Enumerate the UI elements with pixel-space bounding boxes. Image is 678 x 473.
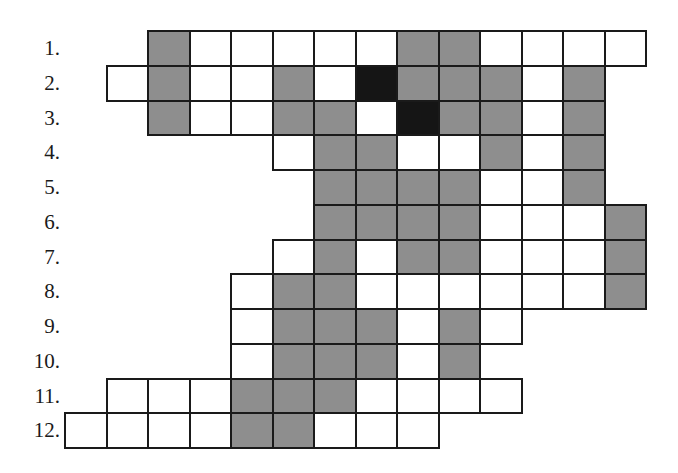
white-cell[interactable] bbox=[313, 65, 357, 102]
row-label: 8. bbox=[0, 274, 60, 309]
shaded-cell bbox=[313, 378, 357, 414]
white-cell[interactable] bbox=[147, 412, 191, 449]
white-cell[interactable] bbox=[230, 65, 274, 102]
white-cell[interactable] bbox=[272, 134, 315, 171]
shaded-cell bbox=[355, 169, 398, 206]
shaded-cell bbox=[147, 100, 191, 136]
white-cell[interactable] bbox=[230, 100, 274, 136]
shaded-cell bbox=[272, 378, 315, 414]
white-cell[interactable] bbox=[479, 378, 523, 414]
white-cell[interactable] bbox=[189, 378, 232, 414]
white-cell[interactable] bbox=[355, 378, 398, 414]
shaded-cell bbox=[604, 239, 647, 275]
white-cell[interactable] bbox=[313, 412, 357, 449]
shaded-cell bbox=[272, 100, 315, 136]
white-cell[interactable] bbox=[189, 30, 232, 67]
white-cell[interactable] bbox=[521, 204, 564, 241]
shaded-cell bbox=[438, 204, 481, 241]
shaded-cell bbox=[562, 100, 606, 136]
white-cell[interactable] bbox=[438, 134, 481, 171]
shaded-cell bbox=[272, 65, 315, 102]
white-cell[interactable] bbox=[355, 273, 398, 310]
shaded-cell bbox=[438, 65, 481, 102]
shaded-cell bbox=[272, 308, 315, 345]
shaded-cell bbox=[313, 273, 357, 310]
shaded-cell bbox=[396, 239, 440, 275]
white-cell[interactable] bbox=[106, 378, 149, 414]
shaded-cell bbox=[313, 169, 357, 206]
white-cell[interactable] bbox=[562, 273, 606, 310]
white-cell[interactable] bbox=[189, 65, 232, 102]
shaded-cell bbox=[272, 412, 315, 449]
shaded-cell bbox=[396, 204, 440, 241]
white-cell[interactable] bbox=[479, 30, 523, 67]
shaded-cell bbox=[313, 308, 357, 345]
white-cell[interactable] bbox=[230, 30, 274, 67]
white-cell[interactable] bbox=[147, 378, 191, 414]
shaded-cell bbox=[604, 273, 647, 310]
white-cell[interactable] bbox=[230, 343, 274, 380]
white-cell[interactable] bbox=[396, 134, 440, 171]
shaded-cell bbox=[355, 204, 398, 241]
white-cell[interactable] bbox=[438, 273, 481, 310]
shaded-cell bbox=[604, 204, 647, 241]
shaded-cell bbox=[230, 378, 274, 414]
shaded-cell bbox=[438, 169, 481, 206]
white-cell[interactable] bbox=[64, 412, 108, 449]
shaded-cell bbox=[355, 343, 398, 380]
white-cell[interactable] bbox=[230, 308, 274, 345]
row-label: 11. bbox=[0, 379, 60, 414]
shaded-cell bbox=[479, 65, 523, 102]
white-cell[interactable] bbox=[272, 239, 315, 275]
white-cell[interactable] bbox=[396, 308, 440, 345]
white-cell[interactable] bbox=[479, 239, 523, 275]
row-label: 3. bbox=[0, 101, 60, 136]
white-cell[interactable] bbox=[189, 100, 232, 136]
white-cell[interactable] bbox=[521, 273, 564, 310]
shaded-cell bbox=[479, 100, 523, 136]
white-cell[interactable] bbox=[521, 65, 564, 102]
shaded-cell bbox=[438, 308, 481, 345]
shaded-cell bbox=[313, 239, 357, 275]
white-cell[interactable] bbox=[396, 412, 440, 449]
white-cell[interactable] bbox=[562, 204, 606, 241]
white-cell[interactable] bbox=[438, 378, 481, 414]
white-cell[interactable] bbox=[355, 100, 398, 136]
shaded-cell bbox=[313, 100, 357, 136]
white-cell[interactable] bbox=[479, 204, 523, 241]
white-cell[interactable] bbox=[189, 412, 232, 449]
white-cell[interactable] bbox=[106, 65, 149, 102]
white-cell[interactable] bbox=[562, 239, 606, 275]
shaded-cell bbox=[438, 343, 481, 380]
white-cell[interactable] bbox=[313, 30, 357, 67]
white-cell[interactable] bbox=[396, 273, 440, 310]
white-cell[interactable] bbox=[521, 30, 564, 67]
shaded-cell bbox=[272, 273, 315, 310]
shaded-cell bbox=[562, 65, 606, 102]
white-cell[interactable] bbox=[479, 308, 523, 345]
row-label: 7. bbox=[0, 240, 60, 275]
white-cell[interactable] bbox=[521, 239, 564, 275]
white-cell[interactable] bbox=[604, 30, 647, 67]
white-cell[interactable] bbox=[396, 378, 440, 414]
shaded-cell bbox=[313, 204, 357, 241]
white-cell[interactable] bbox=[355, 30, 398, 67]
row-label: 5. bbox=[0, 170, 60, 205]
white-cell[interactable] bbox=[272, 30, 315, 67]
white-cell[interactable] bbox=[355, 412, 398, 449]
shaded-cell bbox=[147, 65, 191, 102]
white-cell[interactable] bbox=[396, 343, 440, 380]
white-cell[interactable] bbox=[479, 273, 523, 310]
white-cell[interactable] bbox=[106, 412, 149, 449]
white-cell[interactable] bbox=[230, 273, 274, 310]
crossword-grid: 1.2.3.4.5.6.7.8.9.10.11.12. bbox=[0, 0, 678, 473]
white-cell[interactable] bbox=[521, 100, 564, 136]
white-cell[interactable] bbox=[479, 169, 523, 206]
white-cell[interactable] bbox=[355, 239, 398, 275]
row-label: 10. bbox=[0, 344, 60, 379]
white-cell[interactable] bbox=[521, 134, 564, 171]
shaded-cell bbox=[147, 30, 191, 67]
white-cell[interactable] bbox=[562, 30, 606, 67]
row-label: 2. bbox=[0, 66, 60, 101]
white-cell[interactable] bbox=[521, 169, 564, 206]
